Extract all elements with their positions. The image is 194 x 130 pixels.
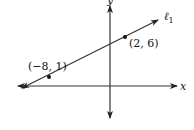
y-axis-label: y bbox=[106, 0, 114, 7]
coordinate-plane: y x ℓ1 (2, 6) (−8, 1) bbox=[0, 0, 194, 130]
line-subscript: 1 bbox=[169, 16, 174, 25]
point-2-6 bbox=[123, 35, 127, 39]
point-label-neg8-1: (−8, 1) bbox=[28, 60, 67, 73]
point-neg8-1 bbox=[47, 75, 51, 79]
x-axis-label: x bbox=[180, 80, 187, 93]
line-l1-label: ℓ1 bbox=[164, 10, 174, 25]
point-label-2-6: (2, 6) bbox=[129, 37, 159, 50]
